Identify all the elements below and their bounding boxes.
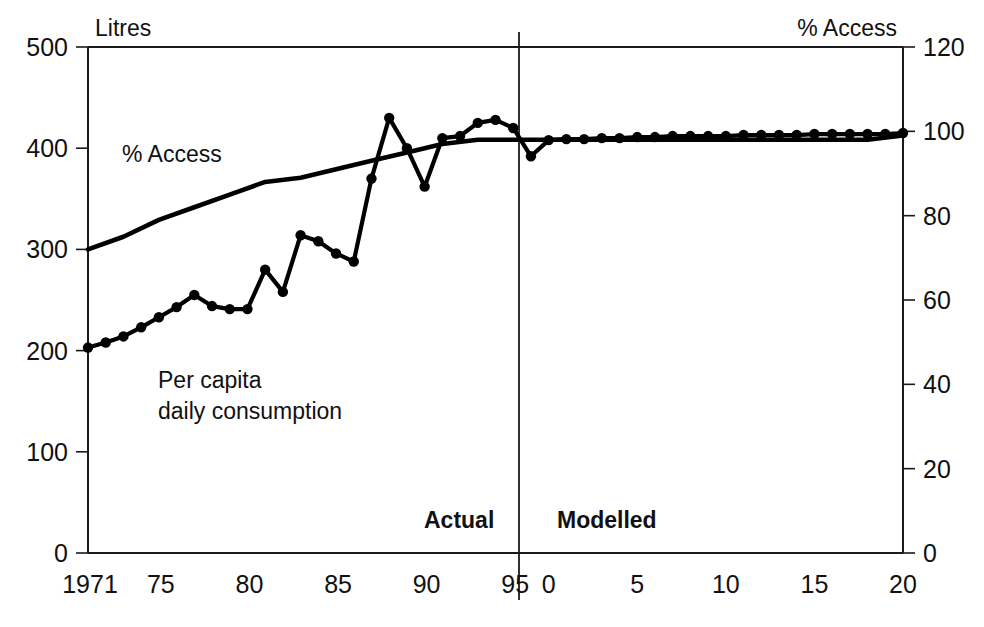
left-tick-label-400: 400 [26,134,68,162]
left-tick-label-300: 300 [26,235,68,263]
data-point-1981 [260,264,270,274]
percent-access-inline-label: % Access [122,141,222,167]
x-tick-label-90: 90 [413,570,441,598]
data-point-2015 [862,129,872,139]
data-point-1973 [118,331,128,341]
data-point-1990 [419,181,429,191]
left-tick-label-0: 0 [54,539,68,567]
data-point-1996 [526,151,536,161]
data-point-1977 [189,290,199,300]
data-point-1980 [242,304,252,314]
x-tick-label-75: 75 [147,570,175,598]
left-tick-label-500: 500 [26,33,68,61]
right-tick-label-40: 40 [923,370,951,398]
left-axis-ticks: 0100200300400500 [26,33,88,567]
data-point-1979 [225,304,235,314]
consumption-access-chart: 0100200300400500 020406080100120 1971758… [0,0,984,627]
x-tick-label-m15: 15 [801,570,829,598]
x-tick-label-1971: 1971 [62,570,118,598]
data-point-1987 [366,173,376,183]
data-point-1989 [402,143,412,153]
data-point-2012 [809,129,819,139]
data-point-1997 [543,135,553,145]
data-point-2002 [632,132,642,142]
data-point-1998 [561,134,571,144]
data-point-2011 [792,130,802,140]
data-point-2000 [597,133,607,143]
data-point-2014 [845,129,855,139]
data-point-1999 [579,134,589,144]
left-tick-label-200: 200 [26,337,68,365]
data-point-1985 [331,248,341,258]
data-point-1972 [101,337,111,347]
x-tick-label-m5: 5 [630,570,644,598]
x-tick-label-80: 80 [236,570,264,598]
left-tick-label-100: 100 [26,438,68,466]
data-point-2005 [685,131,695,141]
data-point-1991 [437,133,447,143]
data-point-2001 [614,133,624,143]
data-point-2003 [650,132,660,142]
data-point-2010 [774,130,784,140]
data-point-2013 [827,129,837,139]
data-point-2004 [667,131,677,141]
data-point-1971 [83,342,93,352]
data-point-1993 [473,118,483,128]
data-point-1974 [136,322,146,332]
data-point-2009 [756,130,766,140]
x-tick-label-m10: 10 [712,570,740,598]
data-point-1992 [455,131,465,141]
per-capita-label-line1: Per capita [158,367,262,393]
left-axis-title: Litres [95,15,151,41]
data-point-1978 [207,301,217,311]
data-point-1988 [384,113,394,123]
x-axis-ticks: 1971758085909505101520 [62,570,917,598]
chart-container: 0100200300400500 020406080100120 1971758… [0,0,984,627]
right-axis-title: % Access [797,15,897,41]
data-point-1983 [295,230,305,240]
data-point-1976 [171,302,181,312]
x-tick-label-85: 85 [324,570,352,598]
data-point-1995 [508,123,518,133]
data-point-2016 [880,129,890,139]
right-tick-label-80: 80 [923,202,951,230]
data-point-1986 [349,256,359,266]
data-point-2006 [703,131,713,141]
right-tick-label-120: 120 [923,33,965,61]
data-point-1982 [278,287,288,297]
right-tick-label-100: 100 [923,117,965,145]
per-capita-label-line2: daily consumption [158,398,342,424]
x-tick-label-m0: 0 [542,570,556,598]
right-tick-label-20: 20 [923,455,951,483]
data-point-1975 [154,312,164,322]
right-tick-label-0: 0 [923,539,937,567]
phase-label-modelled: Modelled [557,507,657,533]
right-tick-label-60: 60 [923,286,951,314]
data-point-2008 [738,130,748,140]
data-point-1994 [490,115,500,125]
data-point-2017 [898,128,908,138]
right-axis-ticks: 020406080100120 [903,33,965,567]
x-tick-label-95: 95 [501,570,529,598]
phase-label-actual: Actual [424,507,494,533]
data-point-2007 [721,131,731,141]
data-point-1984 [313,236,323,246]
x-tick-label-m20: 20 [889,570,917,598]
